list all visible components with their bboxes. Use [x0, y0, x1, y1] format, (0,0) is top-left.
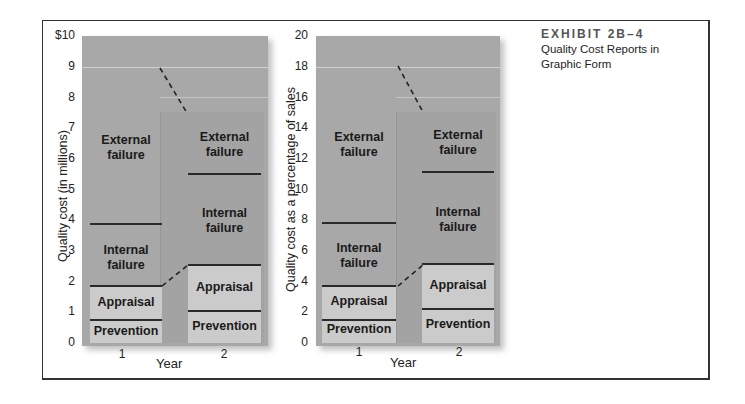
- left-y2-external-label: External failure: [188, 130, 261, 160]
- label-line: failure: [90, 258, 162, 273]
- label-line: Internal: [322, 241, 396, 256]
- right-y1-appraisal-label: Appraisal: [322, 294, 396, 309]
- left-y1-appraisal-label: Appraisal: [90, 295, 162, 310]
- x-tick: 1: [112, 347, 132, 361]
- left-y1-internal-label: Internal failure: [90, 243, 162, 273]
- x-tick: 1: [349, 345, 369, 359]
- label-line: failure: [90, 148, 162, 163]
- left-y-axis-label: Quality cost (in millions): [56, 130, 70, 262]
- label-line: failure: [422, 143, 494, 158]
- label-line: failure: [322, 256, 396, 271]
- right-y1-appraisal-line: [322, 285, 396, 287]
- y-tick: 0: [45, 335, 75, 349]
- right-y1-internal-line: [322, 222, 396, 224]
- exhibit-number: EXHIBIT 2B–4: [541, 27, 644, 41]
- label-line: failure: [422, 220, 494, 235]
- caption-line: Graphic Form: [541, 57, 691, 72]
- exhibit-caption: Quality Cost Reports in Graphic Form: [541, 42, 691, 72]
- label-line: Internal: [90, 243, 162, 258]
- left-x-axis-label: Year: [156, 356, 182, 371]
- y-tick: 0: [278, 335, 308, 349]
- left-y2-internal-line: [188, 173, 261, 175]
- y-tick: 20: [278, 28, 308, 42]
- label-line: failure: [188, 221, 261, 236]
- x-tick: 2: [449, 345, 469, 359]
- left-y2-appraisal-line: [188, 264, 261, 266]
- right-y2-appraisal-label: Appraisal: [422, 278, 494, 293]
- right-y2-prevention-line: [422, 308, 494, 310]
- y-tick: 2: [45, 274, 75, 288]
- y-tick: 18: [278, 59, 308, 73]
- left-y1-prevention-label: Prevention: [90, 324, 162, 339]
- label-line: External: [90, 133, 162, 148]
- right-y1-external-label: External failure: [322, 130, 396, 160]
- right-y2-external-label: External failure: [422, 128, 494, 158]
- y-tick: 8: [45, 90, 75, 104]
- left-y1-prevention-line: [90, 319, 162, 321]
- y-tick: 1: [45, 304, 75, 318]
- x-tick: 2: [214, 347, 234, 361]
- right-y1-prevention-label: Prevention: [322, 322, 396, 337]
- right-y2-prevention-label: Prevention: [422, 317, 494, 332]
- caption-line: Quality Cost Reports in: [541, 42, 691, 57]
- left-y1-external-label: External failure: [90, 133, 162, 163]
- left-y2-internal-label: Internal failure: [188, 206, 261, 236]
- label-line: failure: [322, 145, 396, 160]
- label-line: Internal: [188, 206, 261, 221]
- right-y1-internal-label: Internal failure: [322, 241, 396, 271]
- left-y1-appraisal-line: [90, 285, 162, 287]
- label-line: External: [188, 130, 261, 145]
- right-y2-internal-line: [422, 171, 494, 173]
- y-tick: 2: [278, 304, 308, 318]
- right-x-axis-label: Year: [390, 355, 416, 370]
- left-y2-appraisal-label: Appraisal: [188, 280, 261, 295]
- right-y2-appraisal-line: [422, 263, 494, 265]
- left-y2-prevention-line: [188, 310, 261, 312]
- label-line: failure: [188, 145, 261, 160]
- left-y1-internal-line: [90, 223, 162, 225]
- y-tick: 9: [45, 59, 75, 73]
- left-y2-prevention-label: Prevention: [188, 319, 261, 334]
- label-line: Internal: [422, 205, 494, 220]
- right-dashed-connectors: [392, 60, 432, 290]
- right-y-axis-label: Quality cost as a percentage of sales: [284, 87, 298, 292]
- right-y2-internal-label: Internal failure: [422, 205, 494, 235]
- label-line: External: [322, 130, 396, 145]
- y-tick: $10: [45, 28, 75, 42]
- label-line: External: [422, 128, 494, 143]
- right-y1-prevention-line: [322, 319, 396, 321]
